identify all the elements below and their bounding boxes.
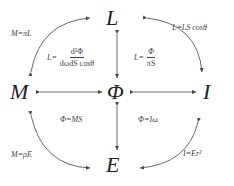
node-M: M bbox=[10, 81, 28, 103]
formula-numerator: d²Φ bbox=[70, 47, 84, 58]
node-E: E bbox=[106, 154, 119, 176]
node-Phi: Φ bbox=[107, 81, 124, 103]
formula-numerator: Φ bbox=[147, 47, 155, 58]
formula-lhs: L= bbox=[134, 53, 144, 62]
formula-lhs: L= bbox=[47, 53, 57, 62]
label-L-eq-LScos: L=LS cosθ bbox=[172, 24, 207, 32]
formula-denominator: πS bbox=[147, 58, 156, 68]
formula-L-definition: L= d²Φ dωdS cosθ bbox=[47, 47, 94, 68]
formula-denominator: dωdS cosθ bbox=[60, 58, 94, 68]
label-M-eq-rhoE: M=ρE bbox=[11, 151, 32, 159]
label-M-eq-piL: M=πL bbox=[11, 30, 32, 38]
label-Phi-eq-Iomega: Φ=Iω bbox=[138, 116, 158, 124]
label-Phi-eq-MS: Φ=MS bbox=[60, 116, 82, 124]
arc-I-E bbox=[140, 122, 198, 168]
formula-L-phi: L= Φ πS bbox=[134, 47, 155, 68]
node-I: I bbox=[203, 81, 210, 103]
label-I-eq-Er2: I=Er² bbox=[183, 150, 201, 158]
node-L: L bbox=[106, 7, 118, 29]
